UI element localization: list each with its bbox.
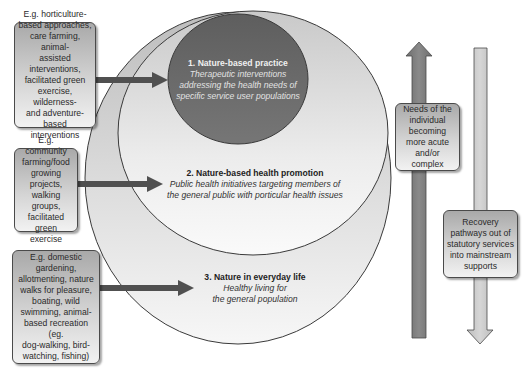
example-line: boating, wild [16,296,96,307]
practice-label: 1. Nature-based practice Therapeutic int… [170,58,306,102]
promotion-label: 2. Nature-based health promotion Public … [155,168,355,201]
example-line: walking groups, [18,190,74,212]
practice-desc-line: Therapeutic interventions [170,69,306,80]
everyday-life-desc-line: the general population [185,294,325,305]
promotion-title: 2. Nature-based health promotion [155,168,355,179]
down-arrow-recovery-pathways [467,48,493,344]
practice-desc-line: addressing the health needs of [170,80,306,91]
example-line: based approaches, [18,20,92,31]
example-box-promotion: E.g. community farming/food growing proj… [14,148,78,232]
practice-title: 1. Nature-based practice [170,58,306,69]
example-line: allotmenting, nature [16,274,96,285]
example-line: E.g. community [18,135,74,157]
example-line: facilitated green [18,75,92,86]
example-line: watching, fishing) [16,351,96,362]
example-line: farming/food [18,157,74,168]
example-line: swimming, animal- [16,307,96,318]
example-line: and adventure-based [18,108,92,130]
example-line: facilitated [18,212,74,223]
example-line: walks for pleasure, [16,285,96,296]
practice-desc-line: specific service user populations [170,91,306,102]
example-line: interventions, [18,64,92,75]
needs-box: Needs of the individual becoming more ac… [395,103,460,171]
recovery-line: into mainstream [447,250,514,261]
everyday-life-label: 3. Nature in everyday life Healthy livin… [185,272,325,305]
recovery-line: Recovery [447,217,514,228]
up-arrow-needs-increasing [406,42,432,338]
needs-line: and/or complex [399,148,456,170]
needs-line: Needs of the [399,104,456,115]
recovery-box: Recovery pathways out of statutory servi… [443,210,518,278]
promotion-desc-line: Public health initiatives targeting memb… [155,179,355,190]
recovery-line: pathways out of [447,228,514,239]
example-line: assisted [18,53,92,64]
needs-line: more acute [399,137,456,148]
promotion-desc-line: the general public with porticular healt… [155,190,355,201]
needs-line: individual [399,115,456,126]
example-line: gardening, [16,263,96,274]
example-line: exercise, wilderness- [18,86,92,108]
example-line: E.g. horticulture- [18,9,92,20]
example-box-practice: E.g. horticulture- based approaches, car… [14,22,96,128]
recovery-line: statutory services [447,239,514,250]
example-line: projects, [18,179,74,190]
example-line: growing [18,168,74,179]
example-line: dog-walking, bird- [16,340,96,351]
example-line: green exercise [18,223,74,245]
needs-line: becoming [399,126,456,137]
example-line: care farming, animal- [18,31,92,53]
everyday-life-desc-line: Healthy living for [185,283,325,294]
recovery-line: supports [447,261,514,272]
example-line: E.g. domestic [16,252,96,263]
example-line: based recreation (eg. [16,318,96,340]
everyday-life-title: 3. Nature in everyday life [185,272,325,283]
example-box-everyday-life: E.g. domestic gardening, allotmenting, n… [12,250,100,364]
